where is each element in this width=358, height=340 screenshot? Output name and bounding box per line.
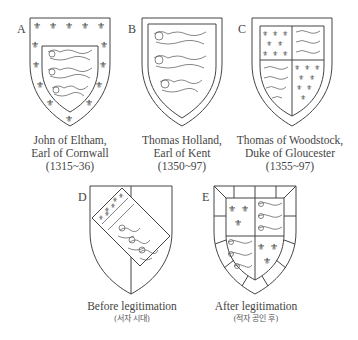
shield-label-d: D [78,190,87,205]
svg-text:⚜: ⚜ [228,204,236,214]
svg-text:⚜: ⚜ [262,50,268,58]
svg-text:⚜: ⚜ [294,64,300,72]
caption-c: Thomas of Woodstock, Duke of Gloucester … [220,134,358,173]
svg-text:⚜: ⚜ [100,40,108,50]
svg-text:⚜: ⚜ [95,80,103,90]
caption-e-line-1: After legitimation [186,300,326,313]
svg-text:⚜: ⚜ [296,84,302,92]
svg-text:⚜: ⚜ [49,21,57,31]
svg-text:⚜: ⚜ [36,80,44,90]
svg-text:⚜: ⚜ [309,74,315,82]
svg-text:⚜: ⚜ [262,30,268,38]
shield-c-icon: ⚜⚜⚜ ⚜⚜ ⚜⚜⚜ ⚜⚜⚜ ⚜⚜ ⚜⚜ ⚜ [250,16,334,128]
svg-text:⚜: ⚜ [32,60,40,70]
shield-e-icon: ⚜⚜⚜ ⚜⚜⚜ [212,184,298,296]
svg-text:⚜: ⚜ [110,202,116,210]
svg-text:⚜: ⚜ [97,21,105,31]
caption-d: Before legitimation (서자 시대) [62,300,202,325]
svg-text:⚜: ⚜ [282,50,288,58]
caption-c-line-1: Thomas of Woodstock, [220,134,358,147]
shield-a-icon: ⚜⚜⚜⚜⚜ ⚜⚜ ⚜⚜ ⚜⚜ ⚜⚜ ⚜ [28,16,112,128]
svg-text:⚜: ⚜ [257,242,265,252]
svg-text:⚜: ⚜ [282,30,288,38]
caption-d-line-1: Before legitimation [62,300,202,313]
svg-text:⚜: ⚜ [65,114,73,124]
shield-label-b: B [128,22,136,37]
svg-text:⚜: ⚜ [99,60,107,70]
svg-text:⚜: ⚜ [277,40,283,48]
caption-c-line-3: (1355~97) [220,160,358,173]
svg-text:⚜: ⚜ [31,40,39,50]
svg-text:⚜: ⚜ [272,50,278,58]
svg-text:⚜: ⚜ [98,214,104,222]
shield-b-icon [140,16,224,128]
svg-text:⚜: ⚜ [118,192,124,200]
svg-text:⚜: ⚜ [304,64,310,72]
shield-label-e: E [202,190,209,205]
svg-text:⚜: ⚜ [300,94,306,102]
svg-text:⚜: ⚜ [81,21,89,31]
svg-text:⚜: ⚜ [298,74,304,82]
svg-text:⚜: ⚜ [270,242,278,252]
shield-label-a: A [17,22,26,37]
shield-d-icon: ⚜⚜ ⚜⚜ ⚜⚜ [88,184,174,296]
svg-text:⚜: ⚜ [46,98,54,108]
svg-text:⚜: ⚜ [272,30,278,38]
shield-label-c: C [238,22,246,37]
svg-text:⚜: ⚜ [263,256,271,266]
svg-text:⚜: ⚜ [266,40,272,48]
svg-text:⚜: ⚜ [33,21,41,31]
svg-text:⚜: ⚜ [65,21,73,31]
svg-text:⚜: ⚜ [234,218,242,228]
caption-e-korean: (적자 공인 후) [186,313,326,325]
svg-text:⚜: ⚜ [306,84,312,92]
svg-text:⚜: ⚜ [314,64,320,72]
caption-e: After legitimation (적자 공인 후) [186,300,326,325]
caption-c-line-2: Duke of Gloucester [220,147,358,160]
caption-d-korean: (서자 시대) [62,313,202,325]
svg-text:⚜: ⚜ [85,98,93,108]
svg-text:⚜: ⚜ [241,204,249,214]
